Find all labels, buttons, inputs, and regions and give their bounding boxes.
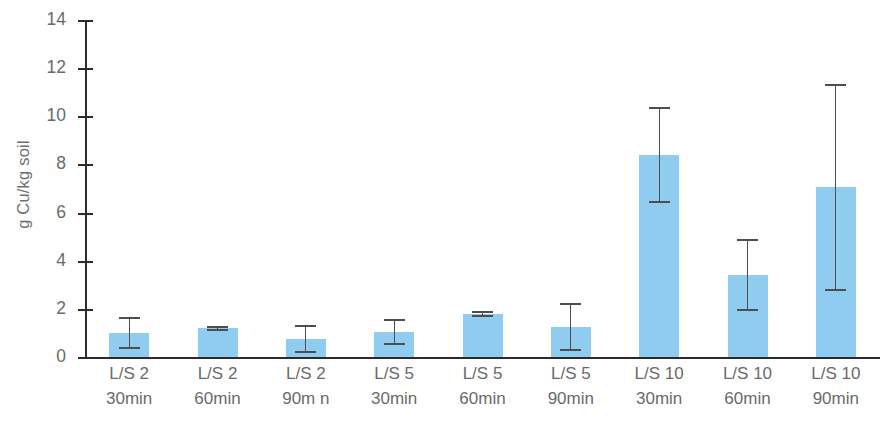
y-axis-tick-label: 0 — [32, 348, 66, 366]
category-label-line1: L/S 2 — [173, 362, 261, 387]
error-bar-cap-lower — [737, 309, 758, 311]
error-bar — [305, 325, 306, 354]
error-bar — [482, 311, 483, 317]
error-bar-cap-lower — [649, 201, 670, 203]
error-bar-cap-lower — [472, 315, 493, 317]
bar-group — [374, 0, 414, 357]
error-bar-cap-upper — [295, 325, 316, 327]
x-axis-category-label: L/S 1090min — [792, 362, 880, 411]
x-axis-category-label: L/S 290m n — [262, 362, 350, 411]
category-label-line2: 60min — [703, 387, 791, 412]
error-bar-cap-lower — [560, 349, 581, 351]
category-label-line1: L/S 2 — [85, 362, 173, 387]
y-axis-tick-label: 14 — [32, 11, 66, 29]
error-bar — [659, 107, 660, 203]
category-label-line1: L/S 5 — [350, 362, 438, 387]
bar-group — [728, 0, 768, 357]
x-axis-category-label: L/S 260min — [173, 362, 261, 411]
error-bar-cap-upper — [472, 311, 493, 313]
bar — [463, 314, 503, 357]
x-axis-category-label: L/S 560min — [438, 362, 526, 411]
error-bar — [835, 84, 836, 291]
category-label-line2: 90min — [527, 387, 615, 412]
y-axis-tick-label: 4 — [32, 252, 66, 270]
x-axis-category-label: L/S 590min — [527, 362, 615, 411]
error-bar-cap-upper — [825, 84, 846, 86]
category-label-line1: L/S 2 — [262, 362, 350, 387]
category-label-line2: 30min — [350, 387, 438, 412]
error-bar — [129, 317, 130, 348]
category-label-line2: 60min — [438, 387, 526, 412]
bar-group — [639, 0, 679, 357]
error-bar-cap-lower — [207, 329, 228, 331]
category-label-line1: L/S 10 — [792, 362, 880, 387]
category-label-line1: L/S 10 — [615, 362, 703, 387]
category-label-line2: 60min — [173, 387, 261, 412]
error-bar — [217, 326, 218, 331]
error-bar-cap-upper — [119, 317, 140, 319]
x-axis-category-label: L/S 530min — [350, 362, 438, 411]
category-label-line1: L/S 10 — [703, 362, 791, 387]
x-axis-category-labels: L/S 230minL/S 260minL/S 290m nL/S 530min… — [85, 362, 880, 432]
y-axis-tick-label: 2 — [32, 300, 66, 318]
bar-group — [286, 0, 326, 357]
category-label-line1: L/S 5 — [438, 362, 526, 387]
bar-group — [551, 0, 591, 357]
y-axis-tick-label: 8 — [32, 155, 66, 173]
error-bar-cap-upper — [737, 239, 758, 241]
x-axis-category-label: L/S 230min — [85, 362, 173, 411]
bar-group — [816, 0, 856, 357]
bar-chart: g Cu/kg soil 02468101214 L/S 230minL/S 2… — [0, 0, 892, 432]
x-axis-category-label: L/S 1030min — [615, 362, 703, 411]
bar — [198, 328, 238, 357]
error-bar — [394, 319, 395, 345]
error-bar-cap-lower — [384, 343, 405, 345]
y-axis-tick-labels: 02468101214 — [18, 0, 66, 432]
y-axis-tick-label: 6 — [32, 204, 66, 222]
error-bar-cap-lower — [825, 289, 846, 291]
bar-group — [463, 0, 503, 357]
error-bar — [747, 239, 748, 311]
x-axis-category-label: L/S 1060min — [703, 362, 791, 411]
plot-area — [85, 0, 880, 359]
y-axis-tick-label: 12 — [32, 59, 66, 77]
error-bar — [570, 303, 571, 351]
bar-group — [109, 0, 149, 357]
error-bar-cap-upper — [207, 326, 228, 328]
category-label-line2: 90min — [792, 387, 880, 412]
error-bar-cap-upper — [384, 319, 405, 321]
category-label-line2: 90m n — [262, 387, 350, 412]
error-bar-cap-lower — [119, 347, 140, 349]
bar-group — [198, 0, 238, 357]
category-label-line1: L/S 5 — [527, 362, 615, 387]
y-axis-tick-label: 10 — [32, 107, 66, 125]
category-label-line2: 30min — [85, 387, 173, 412]
error-bar-cap-lower — [295, 351, 316, 353]
error-bar-cap-upper — [649, 107, 670, 109]
error-bar-cap-upper — [560, 303, 581, 305]
category-label-line2: 30min — [615, 387, 703, 412]
